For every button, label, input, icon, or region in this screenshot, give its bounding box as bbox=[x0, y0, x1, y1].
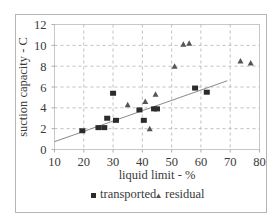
y-tick-label: 4 bbox=[40, 101, 47, 115]
transported-point bbox=[154, 106, 160, 111]
x-tick-label: 60 bbox=[195, 155, 208, 169]
transported-point bbox=[204, 90, 210, 95]
y-tick-label: 0 bbox=[40, 143, 46, 157]
x-tick-label: 20 bbox=[78, 155, 91, 169]
transported-point bbox=[113, 118, 119, 123]
transported-point bbox=[136, 107, 142, 112]
x-tick-label: 70 bbox=[224, 155, 237, 169]
legend-label-transported: transported bbox=[100, 187, 157, 201]
y-tick-label: 2 bbox=[40, 122, 46, 136]
transported-point bbox=[192, 86, 198, 91]
x-tick-label: 30 bbox=[107, 155, 120, 169]
transported-point bbox=[79, 128, 85, 133]
y-tick-label: 8 bbox=[40, 60, 46, 74]
legend-square-icon bbox=[91, 193, 96, 198]
transported-point bbox=[104, 116, 110, 121]
transported-point bbox=[95, 125, 101, 130]
y-tick-label: 6 bbox=[40, 81, 46, 95]
x-tick-label: 80 bbox=[253, 155, 266, 169]
transported-point bbox=[110, 91, 116, 96]
legend: transported residual bbox=[91, 187, 205, 201]
x-tick-label: 40 bbox=[136, 155, 149, 169]
legend-label-residual: residual bbox=[165, 187, 205, 201]
transported-point bbox=[141, 118, 147, 123]
transported-point bbox=[101, 125, 107, 130]
x-tick-label: 50 bbox=[165, 155, 178, 169]
y-axis-title: suction capacity - C bbox=[16, 37, 30, 137]
y-tick-label: 12 bbox=[34, 18, 47, 32]
scatter-chart: 024681012 1020304050607080 suction capac… bbox=[0, 0, 277, 224]
y-tick-label: 10 bbox=[34, 39, 47, 53]
x-tick-label: 10 bbox=[48, 155, 61, 169]
x-axis-title: liquid limit - % bbox=[119, 168, 196, 182]
